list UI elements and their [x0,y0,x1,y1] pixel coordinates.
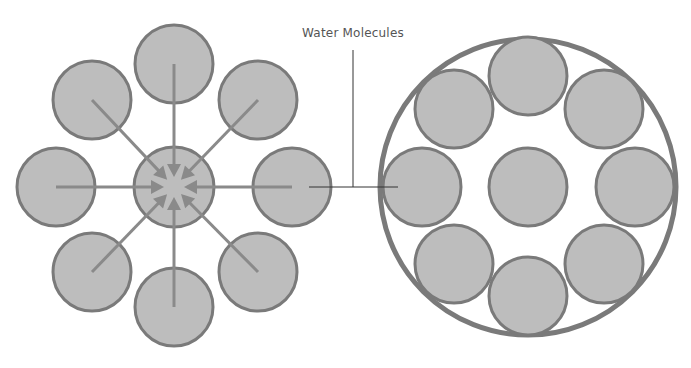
water-molecule [489,148,567,226]
water-molecule [596,148,674,226]
water-molecule [489,37,567,115]
water-molecule [565,70,643,148]
diagram-canvas [0,0,691,368]
water-molecule [565,225,643,303]
water-molecule [489,257,567,335]
right-enclosed-cluster [380,37,676,335]
water-molecule [415,225,493,303]
left-molecule-cluster [17,25,331,346]
water-molecule [415,70,493,148]
